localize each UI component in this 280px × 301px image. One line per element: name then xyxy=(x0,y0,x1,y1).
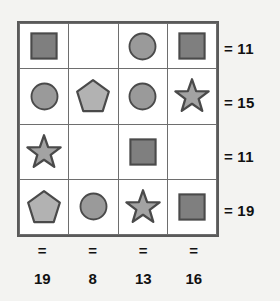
grid-cell-r3c3[interactable] xyxy=(118,124,167,179)
grid-cell-r2c2[interactable] xyxy=(69,69,118,124)
table-row xyxy=(20,69,217,124)
star-icon xyxy=(124,188,162,226)
circle-icon xyxy=(127,31,158,62)
cell-content-r3c3 xyxy=(119,125,167,179)
table-row xyxy=(20,179,217,234)
shape-sum-puzzle: = 11 = 15 = 11 = 19 = 19 = 8 = 13 = xyxy=(0,0,280,301)
cell-content-r4c2 xyxy=(69,180,117,234)
column-sum-1: = 19 xyxy=(17,239,68,297)
grid-table xyxy=(19,23,217,235)
pentagon-icon xyxy=(26,189,62,225)
column-sum-2-value: 8 xyxy=(89,258,97,286)
table-row xyxy=(20,24,217,69)
pentagon-icon xyxy=(75,78,111,114)
grid-body xyxy=(20,24,217,235)
row-sum-2-value: 15 xyxy=(237,94,255,111)
grid-cell-r4c4[interactable] xyxy=(167,179,216,234)
grid-cell-r2c4[interactable] xyxy=(167,69,216,124)
column-sum-3-equals: = xyxy=(139,239,148,258)
cell-content-r2c3 xyxy=(119,69,167,123)
cell-content-r4c3 xyxy=(119,180,167,234)
row-sum-1-equals: = xyxy=(224,40,233,57)
square-icon xyxy=(128,137,158,167)
cell-content-r1c3 xyxy=(119,24,167,68)
row-sum-1-value: 11 xyxy=(237,40,254,57)
cell-content-r2c1 xyxy=(20,69,68,123)
circle-icon xyxy=(127,81,158,112)
star-icon xyxy=(25,133,63,171)
column-sums-panel: = 19 = 8 = 13 = 16 xyxy=(17,239,219,297)
puzzle-grid xyxy=(17,21,219,237)
cell-content-r1c1 xyxy=(20,24,68,68)
cell-content-r4c1 xyxy=(20,180,68,234)
row-sum-3-value: 11 xyxy=(237,148,254,165)
square-icon xyxy=(177,192,207,222)
star-icon xyxy=(173,77,211,115)
cell-content-r3c2 xyxy=(69,125,117,179)
column-sum-1-equals: = xyxy=(38,239,47,258)
grid-cell-r4c2[interactable] xyxy=(69,179,118,234)
column-sum-3-value: 13 xyxy=(135,258,152,286)
row-sum-4-value: 19 xyxy=(237,202,255,219)
cell-content-r1c2 xyxy=(69,24,117,68)
row-sum-3-equals: = xyxy=(224,148,233,165)
circle-icon xyxy=(78,191,109,222)
cell-content-r3c1 xyxy=(20,125,68,179)
grid-cell-r3c4[interactable] xyxy=(167,124,216,179)
row-sum-2: = 15 xyxy=(224,75,280,129)
row-sum-1: = 11 xyxy=(224,21,280,75)
grid-cell-r3c2[interactable] xyxy=(69,124,118,179)
column-sum-4-value: 16 xyxy=(185,258,202,286)
column-sum-3: = 13 xyxy=(118,239,169,297)
column-sum-4: = 16 xyxy=(169,239,220,297)
grid-cell-r1c1[interactable] xyxy=(20,24,69,69)
square-icon xyxy=(177,31,207,61)
grid-cell-r4c3[interactable] xyxy=(118,179,167,234)
cell-content-r4c4 xyxy=(168,180,216,234)
square-icon xyxy=(29,31,59,61)
grid-cell-r2c3[interactable] xyxy=(118,69,167,124)
row-sum-2-equals: = xyxy=(224,94,233,111)
column-sum-2: = 8 xyxy=(68,239,119,297)
circle-icon xyxy=(29,81,60,112)
cell-content-r1c4 xyxy=(168,24,216,68)
grid-cell-r4c1[interactable] xyxy=(20,179,69,234)
grid-cell-r2c1[interactable] xyxy=(20,69,69,124)
row-sums-panel: = 11 = 15 = 11 = 19 xyxy=(224,21,280,237)
cell-content-r2c2 xyxy=(69,69,117,123)
column-sum-1-value: 19 xyxy=(34,258,51,286)
grid-cell-r1c3[interactable] xyxy=(118,24,167,69)
grid-cell-r1c2[interactable] xyxy=(69,24,118,69)
cell-content-r3c4 xyxy=(168,125,216,179)
row-sum-3: = 11 xyxy=(224,129,280,183)
column-sum-4-equals: = xyxy=(189,239,198,258)
grid-cell-r1c4[interactable] xyxy=(167,24,216,69)
grid-cell-r3c1[interactable] xyxy=(20,124,69,179)
row-sum-4-equals: = xyxy=(224,202,233,219)
cell-content-r2c4 xyxy=(168,69,216,123)
table-row xyxy=(20,124,217,179)
row-sum-4: = 19 xyxy=(224,183,280,237)
column-sum-2-equals: = xyxy=(88,239,97,258)
